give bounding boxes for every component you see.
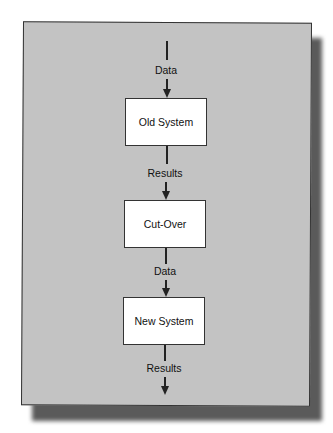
edge-line (166, 146, 168, 164)
edge-line (166, 79, 168, 89)
edge-label-data-in: Data (126, 64, 206, 76)
edge-line (166, 41, 168, 60)
edge-line (165, 280, 167, 288)
arrow-down-icon (163, 89, 171, 98)
edge-label-results-1: Results (125, 167, 205, 179)
edge-line (164, 345, 166, 361)
node-old-system: Old System (125, 98, 207, 146)
arrow-down-icon (162, 288, 170, 297)
arrow-down-icon (162, 191, 170, 200)
node-cut-over: Cut-Over (124, 200, 206, 248)
edge-label-data-2: Data (125, 265, 205, 277)
node-new-system: New System (123, 297, 205, 345)
edge-line (165, 248, 167, 264)
edge-label-results-2: Results (124, 362, 204, 374)
arrow-down-icon (161, 386, 169, 395)
edge-line (164, 377, 166, 386)
edge-line (165, 182, 167, 191)
